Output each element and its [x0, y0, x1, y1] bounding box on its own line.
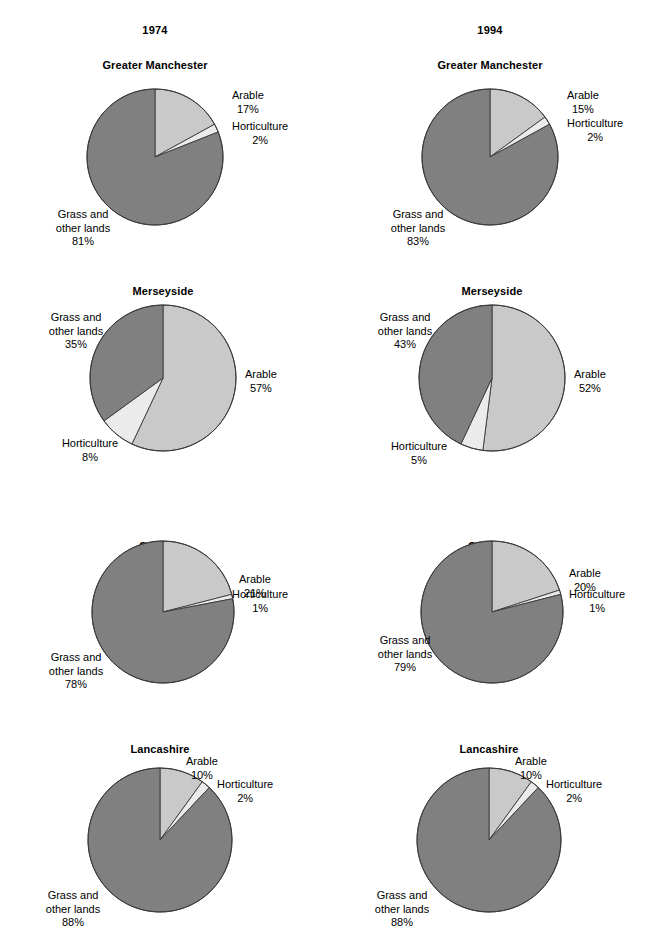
- slice-label-text: Arable: [515, 755, 547, 769]
- slice-label-arable: Arable10%: [515, 755, 547, 782]
- slice-label-text: Horticulture: [546, 778, 602, 792]
- slice-label-value: 88%: [342, 916, 462, 930]
- figure-sheet: 19741994Greater ManchesterArable17%Horti…: [0, 0, 654, 939]
- slice-label-text-line1: Grass and: [342, 889, 462, 903]
- slice-label-value: 2%: [546, 792, 602, 806]
- panel-title: Lancashire: [389, 743, 589, 755]
- pie-panel: LancashireArable10%Horticulture2%Grass a…: [0, 0, 654, 939]
- slice-label-horticulture: Horticulture2%: [546, 778, 602, 805]
- slice-label-grass: Grass andother lands88%: [342, 889, 462, 930]
- slice-label-text-line2: other lands: [342, 903, 462, 917]
- slice-label-value: 10%: [515, 769, 547, 783]
